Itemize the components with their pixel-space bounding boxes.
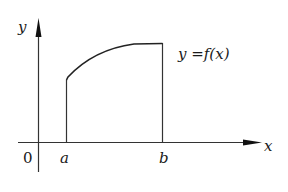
origin-label: 0 — [23, 149, 33, 167]
x-axis-arrow-icon — [243, 140, 262, 146]
b-label: b — [159, 149, 169, 167]
y-axis-label: y — [17, 18, 27, 36]
function-diagram: y x 0 a b y =f(x) — [0, 0, 288, 192]
a-label: a — [60, 149, 69, 167]
curve-label: y =f(x) — [177, 45, 230, 63]
function-curve — [67, 44, 163, 81]
y-axis-arrow-icon — [36, 18, 42, 37]
x-axis-label: x — [264, 137, 273, 155]
